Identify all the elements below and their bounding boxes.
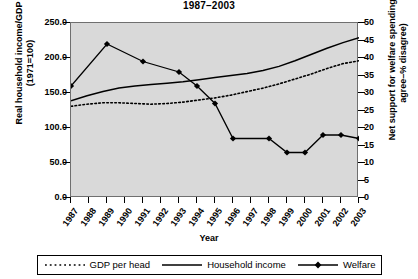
tick-left-100 [63,127,70,128]
welfare-point-1996 [230,135,236,141]
x-tick-label-1997: 1997 [238,206,260,231]
tick-right-25 [358,110,365,111]
tick-right-15 [358,145,365,146]
x-tick-label-1996: 1996 [220,206,242,231]
tick-left-0 [63,197,70,198]
tick-left-250 [63,22,70,23]
legend-item-welfare: Welfare [297,260,376,270]
tick-x-1997 [250,197,251,203]
y-tick-left-200: 200.0 [23,53,67,62]
tick-x-1992 [160,197,161,203]
legend-diamond-swatch-icon [297,260,339,270]
legend-label-household-income: Household income [207,260,286,270]
tick-left-150 [63,92,70,93]
tick-x-1987 [70,197,71,203]
x-tick-label-1999: 1999 [274,206,296,231]
tick-right-40 [358,57,365,58]
x-tick-label-2003: 2003 [346,206,368,231]
y-tick-right-50: 50 [364,18,388,27]
tick-x-2003 [358,197,359,203]
y-tick-left-100: 100.0 [23,123,67,132]
x-tick-label-2002: 2002 [328,206,350,231]
y-tick-right-10: 10 [364,158,388,167]
x-tick-label-1995: 1995 [202,206,224,231]
x-tick-label-1990: 1990 [112,206,134,231]
x-axis-label: Year [0,233,418,243]
tick-x-1991 [142,197,143,203]
y-tick-right-40: 40 [364,53,388,62]
tick-right-5 [358,180,365,181]
plot-area [70,22,358,197]
legend-label-gdp-per-head: GDP per head [90,260,151,270]
x-tick-label-1998: 1998 [256,206,278,231]
legend-item-gdp-per-head: GDP per head [44,260,151,270]
x-tick-label-1994: 1994 [184,206,206,231]
chart-legend: GDP per head Household income Welfare [37,255,382,275]
series-gdp-per-head-line [71,61,359,107]
y-tick-right-5: 5 [364,176,388,185]
welfare-point-1991 [140,58,146,64]
tick-x-1989 [106,197,107,203]
y-tick-left-50: 50.0 [23,158,67,167]
series-canvas [71,23,359,198]
tick-right-50 [358,22,365,23]
y-tick-left-150: 150.0 [23,88,67,97]
tick-x-2001 [322,197,323,203]
legend-solid-swatch-icon [161,261,203,269]
x-tick-label-1989: 1989 [94,206,116,231]
tick-right-20 [358,127,365,128]
x-tick-label-1991: 1991 [130,206,152,231]
tick-x-1990 [124,197,125,203]
y-tick-right-0: 0 [364,193,388,202]
x-tick-label-1987: 1987 [58,206,80,231]
x-tick-label-2000: 2000 [292,206,314,231]
tick-right-0 [358,197,365,198]
legend-label-welfare: Welfare [343,260,376,270]
x-tick-label-2001: 2001 [310,206,332,231]
tick-x-1988 [88,197,89,203]
x-tick-label-1992: 1992 [148,206,170,231]
y-tick-left-0: 0.0 [23,193,67,202]
tick-left-50 [63,162,70,163]
tick-x-1999 [286,197,287,203]
tick-left-200 [63,57,70,58]
y-tick-left-250: 250.0 [23,18,67,27]
chart-figure: 1987–2003 Real household income/GDP (197… [0,0,418,279]
chart-title: 1987–2003 [0,0,418,12]
legend-dotted-swatch-icon [44,261,86,269]
y-tick-right-15: 15 [364,141,388,150]
tick-right-45 [358,40,365,41]
y-tick-right-30: 30 [364,88,388,97]
welfare-point-2002 [338,132,344,138]
tick-x-1994 [196,197,197,203]
x-tick-label-1993: 1993 [166,206,188,231]
tick-x-2002 [340,197,341,203]
tick-x-1998 [268,197,269,203]
tick-x-1995 [214,197,215,203]
tick-x-1993 [178,197,179,203]
x-tick-label-1988: 1988 [76,206,98,231]
tick-x-1996 [232,197,233,203]
y-tick-right-35: 35 [364,71,388,80]
welfare-point-2003 [356,135,359,141]
y-axis-label-right: Net support for welfare spending (% agre… [387,0,409,148]
y-tick-right-20: 20 [364,123,388,132]
y-tick-right-25: 25 [364,106,388,115]
tick-x-2000 [304,197,305,203]
tick-right-10 [358,162,365,163]
tick-right-35 [358,75,365,76]
legend-item-household-income: Household income [161,260,286,270]
tick-right-30 [358,92,365,93]
y-tick-right-45: 45 [364,36,388,45]
